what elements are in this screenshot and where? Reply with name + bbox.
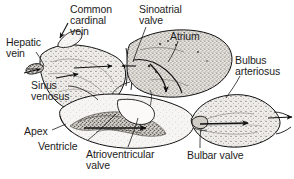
figure-root: Common cardinal vein Sinoatrial valve At… <box>0 0 294 179</box>
label-line: valve <box>139 15 182 26</box>
label-line: Bulbar valve <box>187 150 244 161</box>
label-bulbar-valve: Bulbar valve <box>187 150 244 161</box>
label-line: Apex <box>24 126 48 137</box>
label-atrium: Atrium <box>170 31 200 42</box>
label-line: Ventricle <box>38 141 77 152</box>
label-hepatic-vein: Hepatic vein <box>6 37 41 59</box>
label-common-cardinal-vein: Common cardinal vein <box>70 4 112 38</box>
label-line: valve <box>86 160 154 171</box>
ventricle-structure <box>60 94 195 148</box>
label-ventricle: Ventricle <box>38 141 77 152</box>
label-line: vein <box>70 26 112 37</box>
label-atrioventricular-valve: Atrioventricular valve <box>86 149 154 171</box>
label-line: venosus <box>31 91 69 102</box>
label-line: Atrium <box>170 31 200 42</box>
label-sinus-venosus: Sinus venosus <box>31 80 69 102</box>
label-sinoatrial-valve: Sinoatrial valve <box>139 4 182 26</box>
label-apex: Apex <box>24 126 48 137</box>
label-line: arteriosus <box>235 66 280 77</box>
label-line: vein <box>6 48 41 59</box>
label-bulbus-arteriosus: Bulbus arteriosus <box>235 55 280 77</box>
